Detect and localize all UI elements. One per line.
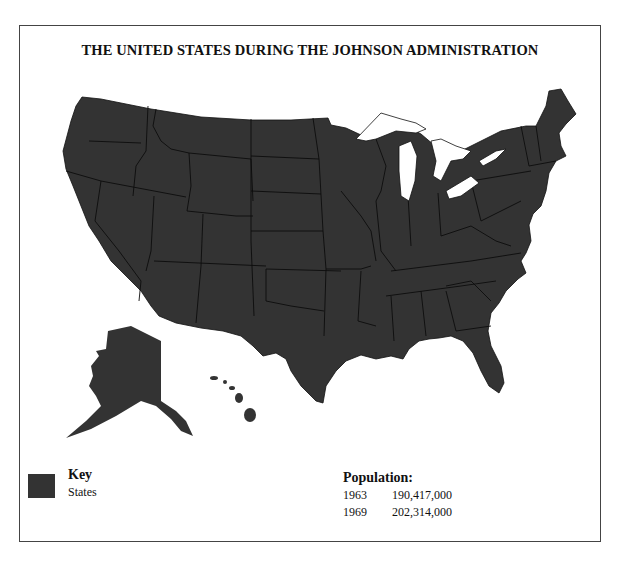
map-frame: THE UNITED STATES DURING THE JOHNSON ADM… xyxy=(19,25,601,542)
alaska-shape xyxy=(66,326,193,438)
us-map xyxy=(20,26,602,543)
population-row: 1963190,417,000 xyxy=(343,488,452,503)
population-value: 202,314,000 xyxy=(392,505,452,519)
key-heading: Key xyxy=(68,467,92,483)
hawaii-shape xyxy=(210,376,256,422)
population-row: 1969202,314,000 xyxy=(343,505,452,520)
key-label-states: States xyxy=(68,485,97,500)
population-heading: Population: xyxy=(343,470,413,486)
population-year: 1963 xyxy=(343,488,392,503)
key-swatch-states xyxy=(28,474,55,498)
population-value: 190,417,000 xyxy=(392,488,452,502)
population-year: 1969 xyxy=(343,505,392,520)
